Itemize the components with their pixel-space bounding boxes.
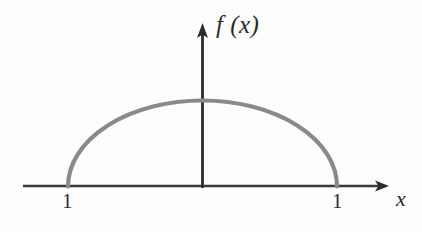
- function-plot-figure: f (x) x 1 1: [0, 0, 422, 232]
- x-axis-label: x: [396, 188, 406, 210]
- tick-label-left-one: 1: [62, 191, 73, 212]
- y-axis-label: f (x): [216, 12, 259, 37]
- tick-label-right-one: 1: [332, 191, 343, 212]
